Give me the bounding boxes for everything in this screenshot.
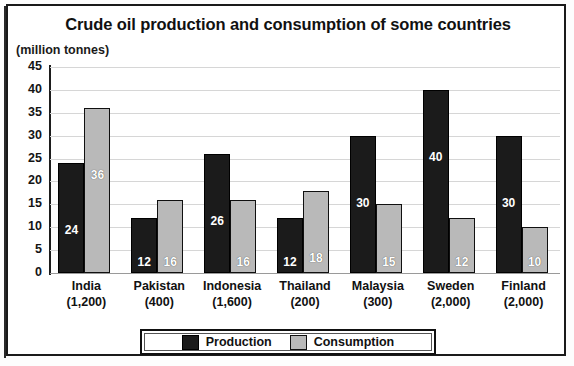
category-sublabel: (1,200) [50, 295, 123, 311]
x-axis-category-label: India(1,200) [50, 279, 123, 310]
bar-production: 30 [496, 136, 522, 273]
bar-production: 12 [277, 218, 303, 273]
category-name: Finland [501, 279, 545, 293]
legend-label-consumption: Consumption [314, 335, 395, 349]
legend-swatch-consumption-icon [290, 335, 307, 350]
gridline [50, 90, 560, 91]
y-axis-tick-label: 15 [12, 196, 42, 210]
x-axis-category-label: Malaysia(300) [341, 279, 414, 310]
chart-legend: Production Consumption [140, 329, 436, 355]
gridline [50, 113, 560, 114]
gridline [50, 159, 560, 160]
bar-value-label: 40 [424, 151, 448, 163]
x-axis-category-label: Pakistan(400) [123, 279, 196, 310]
bar-value-label: 16 [158, 256, 182, 268]
y-axis-tick-label: 35 [12, 105, 42, 119]
bar-consumption: 16 [230, 200, 256, 273]
category-sublabel: (400) [123, 295, 196, 311]
y-axis-tick-label: 30 [12, 128, 42, 142]
gridline [50, 181, 560, 182]
bar-value-label: 36 [85, 169, 109, 181]
bar-production: 30 [350, 136, 376, 273]
gridline [50, 136, 560, 137]
x-axis-category-label: Sweden(2,000) [414, 279, 487, 310]
legend-label-production: Production [206, 335, 272, 349]
category-sublabel: (300) [341, 295, 414, 311]
x-axis-category-label: Thailand(200) [269, 279, 342, 310]
bar-value-label: 24 [59, 224, 83, 236]
bar-consumption: 12 [449, 218, 475, 273]
category-name: Indonesia [203, 279, 261, 293]
bar-value-label: 12 [278, 256, 302, 268]
category-name: Pakistan [134, 279, 185, 293]
x-axis-category-label: Finland(2,000) [487, 279, 560, 310]
bar-consumption: 18 [303, 191, 329, 273]
x-axis-category-label: Indonesia(1,600) [196, 279, 269, 310]
bar-value-label: 30 [351, 197, 375, 209]
category-sublabel: (2,000) [487, 295, 560, 311]
bar-consumption: 36 [84, 108, 110, 273]
chart-frame: Crude oil production and consumption of … [6, 4, 566, 356]
gridline [50, 273, 560, 274]
bar-production: 24 [58, 163, 84, 273]
category-name: Malaysia [352, 279, 404, 293]
gridline [50, 67, 560, 68]
chart-unit-label: (million tonnes) [16, 43, 109, 57]
y-axis-tick-label: 10 [12, 219, 42, 233]
bar-value-label: 26 [205, 215, 229, 227]
bar-value-label: 16 [231, 256, 255, 268]
y-axis-tick-label: 45 [12, 59, 42, 73]
y-axis-tick-label: 20 [12, 173, 42, 187]
bar-production: 12 [131, 218, 157, 273]
legend-item-consumption: Consumption [290, 335, 395, 350]
bar-value-label: 12 [132, 256, 156, 268]
chart-title: Crude oil production and consumption of … [8, 15, 568, 34]
category-sublabel: (2,000) [414, 295, 487, 311]
bar-production: 26 [204, 154, 230, 273]
legend-swatch-production-icon [182, 335, 199, 350]
bar-consumption: 10 [522, 227, 548, 273]
y-axis-tick-label: 25 [12, 151, 42, 165]
bar-production: 40 [423, 90, 449, 273]
y-axis-tick-label: 5 [12, 242, 42, 256]
bar-consumption: 16 [157, 200, 183, 273]
category-sublabel: (1,600) [196, 295, 269, 311]
legend-item-production: Production [182, 335, 272, 350]
category-name: Sweden [427, 279, 474, 293]
bar-value-label: 10 [523, 256, 547, 268]
category-name: Thailand [279, 279, 330, 293]
category-sublabel: (200) [269, 295, 342, 311]
y-axis-tick-label: 0 [12, 265, 42, 279]
plot-area: 2436121626161218301540123010 [50, 67, 560, 273]
bar-value-label: 18 [304, 252, 328, 264]
bar-value-label: 30 [497, 197, 521, 209]
bar-value-label: 12 [450, 256, 474, 268]
y-axis-tick-label: 40 [12, 82, 42, 96]
bar-value-label: 15 [377, 256, 401, 268]
category-name: India [72, 279, 101, 293]
bar-consumption: 15 [376, 204, 402, 273]
